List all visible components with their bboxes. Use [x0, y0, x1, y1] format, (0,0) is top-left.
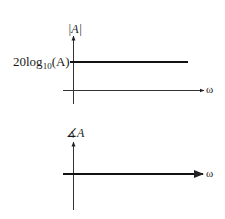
bode-diagram: |A| 20log10(A) ω ∡A ω	[0, 0, 225, 219]
magnitude-y-axis-label: |A|	[68, 23, 82, 35]
diagram-graphics	[0, 0, 225, 219]
magnitude-level-label: 20log10(A)	[13, 55, 70, 68]
phase-x-axis-label: ω	[206, 168, 213, 179]
level-label-main: 20log	[13, 54, 43, 69]
phase-y-axis-label: ∡A	[66, 127, 84, 139]
level-label-tail: (A)	[52, 54, 70, 69]
magnitude-x-axis-label: ω	[206, 84, 213, 95]
phase-plot	[63, 142, 203, 210]
magnitude-plot	[63, 36, 204, 104]
level-label-subscript: 10	[43, 61, 52, 71]
